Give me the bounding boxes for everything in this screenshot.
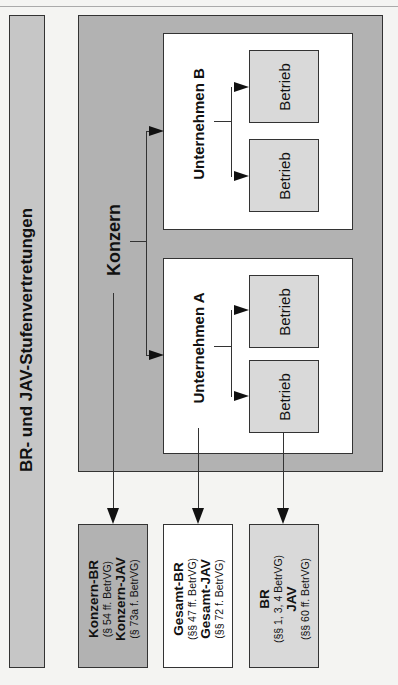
unternehmen-down-line bbox=[198, 428, 199, 509]
diagram-title: BR- und JAV-Stufenvertretungen bbox=[17, 208, 37, 472]
betrieb-b1-label: Betrieb bbox=[276, 63, 293, 111]
betrieb-b1-box: Betrieb bbox=[249, 50, 319, 123]
konzern-br-jav-text: Konzern-BR (§ 54 ff. BetrVG) Konzern-JAV… bbox=[86, 557, 140, 641]
konzern-br-jav-box: Konzern-BR (§ 54 ff. BetrVG) Konzern-JAV… bbox=[78, 524, 148, 668]
betrieb-a2-label: Betrieb bbox=[276, 373, 293, 421]
arrow-right-icon bbox=[234, 82, 249, 92]
arrow-right-icon bbox=[149, 126, 164, 136]
arrow-down-icon bbox=[277, 508, 289, 524]
unternehmen-a-branch-line bbox=[231, 310, 232, 397]
unternehmen-a-label: Unternehmen A bbox=[190, 292, 207, 403]
konzern-label: Konzern bbox=[104, 204, 125, 276]
konzern-jav-ref: (§ 73a f. BetrVG) bbox=[128, 557, 140, 641]
jav-ref: (§§ 60 ff. BetrVG) bbox=[299, 555, 311, 643]
gesamt-br-jav-box: Gesamt-BR (§§ 47 ff. BetrVG) Gesamt-JAV … bbox=[163, 524, 233, 668]
br-ref: (§§ 1, 3, 4 BetrVG) bbox=[272, 555, 284, 643]
konzern-br-ref: (§ 54 ff. BetrVG) bbox=[101, 557, 113, 641]
br-jav-box: BR (§§ 1, 3, 4 BetrVG) JAV (§§ 60 ff. Be… bbox=[249, 524, 319, 668]
gesamt-br-ref: (§§ 47 ff. BetrVG) bbox=[186, 558, 198, 640]
br-label: BR bbox=[257, 555, 272, 643]
betrieb-a2-box: Betrieb bbox=[249, 360, 319, 433]
konzern-down-line bbox=[113, 293, 114, 509]
konzern-branch-line bbox=[146, 131, 147, 356]
arrow-right-icon bbox=[234, 391, 249, 401]
unternehmen-b-stub-line bbox=[214, 121, 232, 122]
betrieb-b2-label: Betrieb bbox=[276, 152, 293, 200]
unternehmen-b-label: Unternehmen B bbox=[190, 68, 207, 180]
arrow-down-icon bbox=[107, 508, 119, 524]
unternehmen-a-stub-line bbox=[214, 346, 232, 347]
betrieb-down-line bbox=[283, 432, 284, 509]
gesamt-jav-label: Gesamt-JAV bbox=[198, 558, 213, 640]
arrow-down-icon bbox=[192, 508, 204, 524]
gesamt-br-label: Gesamt-BR bbox=[171, 558, 186, 640]
arrow-right-icon bbox=[234, 305, 249, 315]
gesamt-jav-ref: (§§ 72 f. BetrVG) bbox=[213, 558, 225, 640]
unternehmen-b-branch-line bbox=[231, 87, 232, 177]
top-rule bbox=[0, 6, 398, 7]
jav-label: JAV bbox=[284, 555, 299, 643]
arrow-right-icon bbox=[234, 171, 249, 181]
konzern-jav-label: Konzern-JAV bbox=[113, 557, 128, 641]
konzern-br-label: Konzern-BR bbox=[86, 557, 101, 641]
arrow-right-icon bbox=[149, 350, 164, 360]
gesamt-br-jav-text: Gesamt-BR (§§ 47 ff. BetrVG) Gesamt-JAV … bbox=[171, 558, 225, 640]
konzern-stub-line bbox=[130, 241, 147, 242]
br-jav-text: BR (§§ 1, 3, 4 BetrVG) JAV (§§ 60 ff. Be… bbox=[257, 555, 311, 643]
betrieb-a1-label: Betrieb bbox=[276, 288, 293, 336]
title-bar: BR- und JAV-Stufenvertretungen bbox=[9, 15, 45, 668]
betrieb-a1-box: Betrieb bbox=[249, 275, 319, 348]
betrieb-b2-box: Betrieb bbox=[249, 139, 319, 212]
